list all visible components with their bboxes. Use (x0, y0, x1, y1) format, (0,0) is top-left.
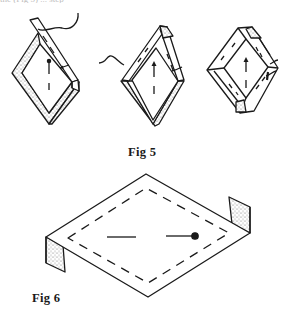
fig5-step3-diagram (207, 27, 278, 113)
fig5-step2-diagram (99, 26, 184, 126)
fig6-diagram (46, 174, 250, 297)
fig5-caption: Fig 5 (128, 145, 156, 160)
fig5-step1-diagram (12, 13, 79, 124)
fig6-caption: Fig 6 (32, 291, 60, 306)
